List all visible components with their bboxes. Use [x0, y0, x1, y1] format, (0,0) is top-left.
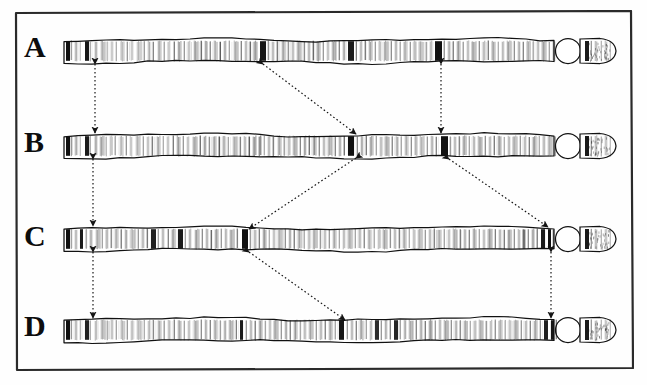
chromosome-b [64, 133, 616, 160]
figure-canvas: A B C D [0, 0, 647, 385]
arrow-C-D-diagonal [249, 252, 345, 320]
chromosome-band [441, 136, 448, 156]
arrow-A-B-diagonal [263, 64, 356, 134]
chromosome-band [85, 320, 89, 340]
terminal-bulb [556, 39, 581, 64]
chromosome-band [85, 136, 89, 156]
chromosome-band [585, 41, 589, 61]
chromosome-band [240, 320, 243, 340]
terminal-bulb [556, 227, 581, 252]
chromosome-band [348, 136, 354, 156]
chromosome-d [64, 317, 616, 344]
chromosome-outline [64, 226, 554, 252]
chromosome-band [260, 41, 266, 61]
arrows-group [93, 64, 551, 320]
chromosome-band [375, 320, 379, 340]
terminal-bulb [556, 318, 581, 343]
chromosome-band [66, 41, 70, 61]
chromosome-a [64, 38, 616, 65]
chromosome-band [242, 229, 248, 249]
chromosome-band [551, 320, 554, 340]
chromosome-c [64, 226, 616, 252]
chromosome-band [585, 136, 589, 156]
chromosome-band [585, 320, 589, 340]
arrow-B-C-diagonal-left [249, 158, 356, 229]
chromosome-band [394, 320, 398, 340]
chromosome-band [585, 229, 589, 249]
terminal-bulb [556, 134, 581, 159]
chromosomes-group [64, 38, 616, 344]
chromosome-art-layer [0, 0, 647, 385]
arrow-B-C-diagonal-right [449, 159, 548, 227]
